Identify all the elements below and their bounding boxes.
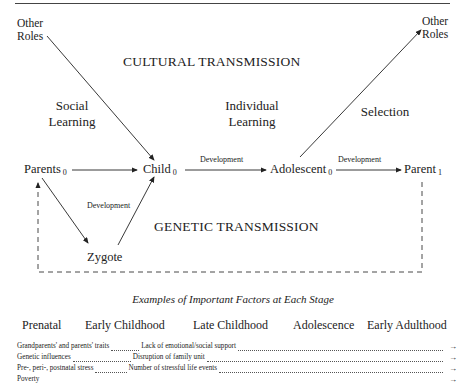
factor-prenatal: Grandparents' and parents' traits	[17, 341, 109, 352]
factor-row: Pre-, peri-, postnatal stress Number of …	[17, 363, 457, 374]
node-child-sub: 0	[173, 168, 177, 177]
stage-prenatal: Prenatal	[22, 318, 61, 333]
stage-early-adulthood: Early Adulthood	[367, 318, 447, 333]
other-roles-left: Other Roles	[17, 17, 43, 43]
node-zygote: Zygote	[87, 250, 122, 265]
node-parent1: Parent1	[404, 162, 442, 177]
individual-learning-label: Individual Learning	[214, 98, 290, 130]
factor-prenatal: Pre-, peri-, postnatal stress	[17, 363, 93, 374]
node-parents-label: Parents	[24, 162, 61, 176]
continue-arrow-icon: →	[445, 352, 457, 363]
leader-dots	[73, 354, 131, 362]
leader-dots	[219, 365, 443, 373]
dev-label-adolescent-parent: Development	[338, 155, 381, 164]
node-adolescent-label: Adolescent	[270, 162, 326, 176]
dev-label-child-adolescent: Development	[200, 155, 243, 164]
dev-label-zygote: Development	[87, 201, 130, 210]
factor-next: Lack of emotional/social support	[141, 341, 236, 352]
node-adolescent-sub: 0	[328, 168, 332, 177]
genetic-transmission-label: GENETIC TRANSMISSION	[154, 219, 319, 235]
factor-row: Poverty →	[17, 374, 457, 385]
factor-row: Grandparents' and parents' traits Lack o…	[17, 341, 457, 352]
zygote-child-arrow	[118, 177, 154, 245]
node-parents-sub: 0	[63, 168, 67, 177]
leader-space	[41, 376, 443, 383]
social-learning-label: Social Learning	[44, 98, 100, 130]
factor-next: Disruption of family unit	[133, 352, 205, 363]
factor-row: Genetic influences Disruption of family …	[17, 352, 457, 363]
node-parent1-label: Parent	[404, 162, 436, 176]
stage-late-childhood: Late Childhood	[193, 318, 268, 333]
selection-label: Selection	[355, 104, 415, 120]
leader-dots	[111, 343, 139, 351]
stage-early-childhood: Early Childhood	[85, 318, 165, 333]
factor-prenatal: Genetic influences	[17, 352, 71, 363]
node-parent1-sub: 1	[438, 168, 442, 177]
node-adolescent: Adolescent0	[270, 162, 332, 177]
continue-arrow-icon: →	[445, 341, 457, 352]
stage-adolescence: Adolescence	[293, 318, 354, 333]
node-child: Child0	[143, 162, 177, 177]
factor-next: Number of stressful life events	[128, 363, 217, 374]
factors-caption: Examples of Important Factors at Each St…	[0, 293, 466, 305]
cultural-transmission-label: CULTURAL TRANSMISSION	[123, 54, 300, 70]
leader-dots	[238, 343, 443, 351]
factor-prenatal: Poverty	[17, 374, 39, 385]
parents-zygote-arrow	[42, 178, 88, 243]
other-roles-right: Other Roles	[422, 15, 448, 41]
leader-dots	[95, 365, 127, 373]
continue-arrow-icon: →	[445, 363, 457, 374]
continue-arrow-icon: →	[445, 374, 457, 385]
leader-dots	[207, 354, 443, 362]
selection-arrow	[300, 30, 421, 157]
node-parents: Parents0	[24, 162, 67, 177]
node-child-label: Child	[143, 162, 171, 176]
